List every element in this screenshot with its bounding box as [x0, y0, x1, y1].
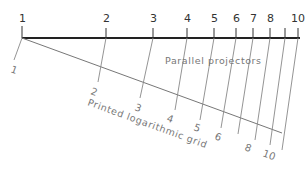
- svg-text:4: 4: [165, 113, 175, 126]
- svg-text:1: 1: [9, 64, 19, 77]
- svg-text:4: 4: [184, 12, 191, 25]
- svg-text:7: 7: [250, 12, 257, 25]
- parallel-projectors-caption: Parallel projectors: [165, 55, 262, 66]
- printed-grid-caption: Printed logarithmic grid: [86, 97, 209, 151]
- svg-text:3: 3: [150, 12, 157, 25]
- diagram-canvas: 1 2 3 4 5 6 7 8 10 1 2 3 4 5 6 8 10 Para…: [0, 0, 307, 170]
- svg-text:6: 6: [233, 12, 240, 25]
- svg-text:10: 10: [291, 12, 305, 25]
- svg-text:10: 10: [261, 148, 277, 163]
- top-ticks: [22, 26, 298, 38]
- svg-text:1: 1: [19, 12, 26, 25]
- svg-text:5: 5: [211, 12, 218, 25]
- svg-text:5: 5: [192, 122, 202, 135]
- svg-text:2: 2: [103, 12, 110, 25]
- log-projection-diagram: 1 2 3 4 5 6 7 8 10 1 2 3 4 5 6 8 10 Para…: [0, 0, 307, 170]
- bottom-scale-labels: 1 2 3 4 5 6 8 10: [9, 64, 277, 163]
- svg-text:6: 6: [213, 131, 223, 144]
- svg-text:8: 8: [267, 12, 274, 25]
- svg-text:8: 8: [243, 142, 253, 155]
- top-scale-labels: 1 2 3 4 5 6 7 8 10: [19, 12, 305, 25]
